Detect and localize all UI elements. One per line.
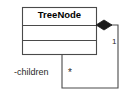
multiplicity-one: 1 bbox=[112, 38, 116, 46]
class-name-treenode: TreeNode bbox=[22, 10, 97, 20]
uml-class-diagram: TreeNode -children 1 * bbox=[0, 0, 129, 96]
composition-diamond-icon bbox=[96, 20, 112, 30]
association-role-children: -children bbox=[14, 68, 49, 77]
multiplicity-many: * bbox=[68, 68, 72, 78]
